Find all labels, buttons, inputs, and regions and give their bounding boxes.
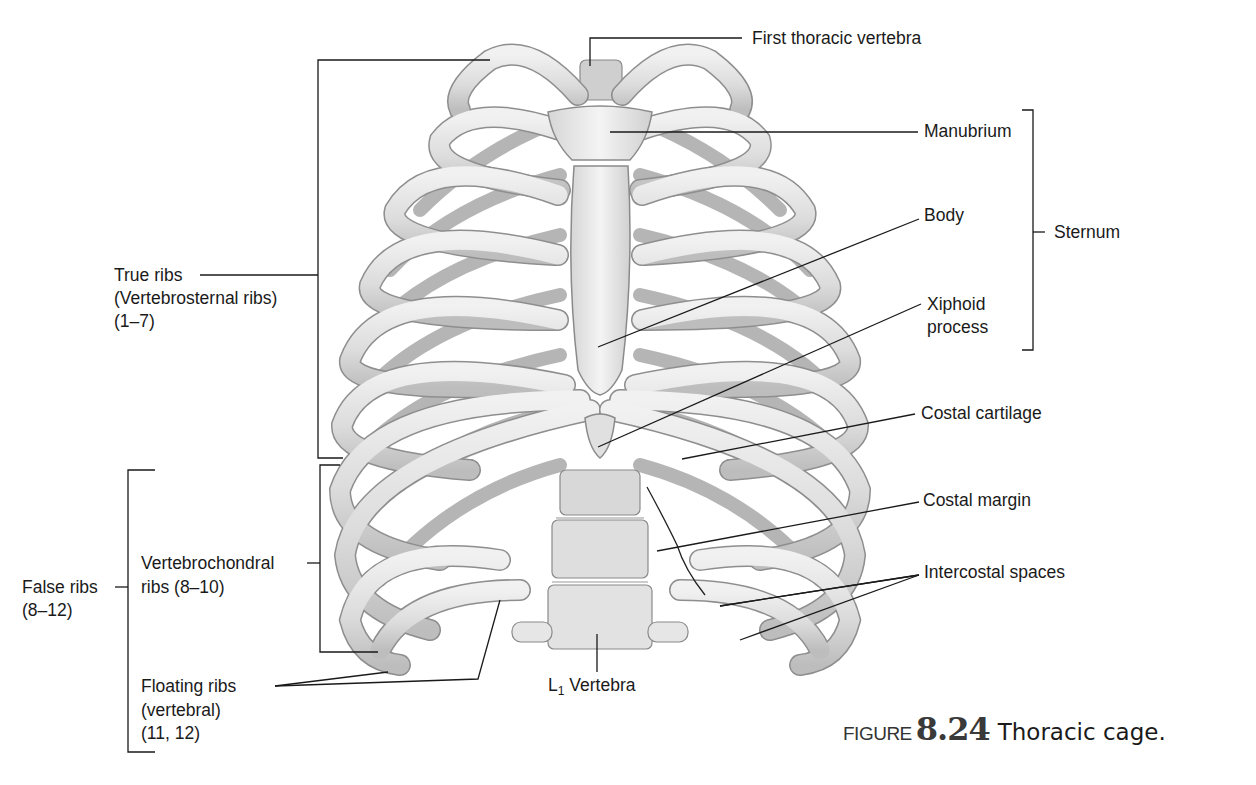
thoracic-cage-illustration [0,0,1256,785]
label-floating-ribs-line1: Floating ribs [141,676,236,697]
label-true-ribs-line1: True ribs [114,265,182,286]
label-true-ribs-line2: (Vertebrosternal ribs) [114,288,277,309]
manubrium [548,106,652,160]
label-first-thoracic-vertebra: First thoracic vertebra [752,28,921,49]
label-floating-ribs-line2: (vertebral) [141,700,221,721]
costal-margin-lines [647,487,705,595]
label-floating-ribs-line3: (11, 12) [141,723,200,744]
caption-title: Thoracic cage. [998,719,1166,745]
label-intercostal-spaces: Intercostal spaces [924,562,1065,583]
label-manubrium: Manubrium [924,121,1012,142]
sternum-body [571,166,630,395]
xiphoid-process [585,414,615,458]
label-true-ribs-line3: (1–7) [114,311,155,332]
thoracic-cage-figure: First thoracic vertebra Manubrium Body S… [0,0,1256,785]
label-false-ribs-line1: False ribs [22,577,98,598]
figure-caption: FIGURE8.24Thoracic cage. [843,710,1166,748]
label-sternum: Sternum [1054,222,1120,243]
caption-prefix: FIGURE [843,723,912,744]
label-l1-vertebra: L1 Vertebra [548,675,635,702]
label-costal-cartilage: Costal cartilage [921,403,1042,424]
label-xiphoid-line1: Xiphoid [927,294,985,315]
label-body: Body [924,205,964,226]
label-costal-margin: Costal margin [923,490,1031,511]
label-false-ribs-line2: (8–12) [22,600,73,621]
label-vertebrochondral-line1: Vertebrochondral [141,553,274,574]
label-xiphoid-line2: process [927,317,988,338]
caption-number: 8.24 [916,710,990,748]
label-vertebrochondral-line2: ribs (8–10) [141,577,225,598]
